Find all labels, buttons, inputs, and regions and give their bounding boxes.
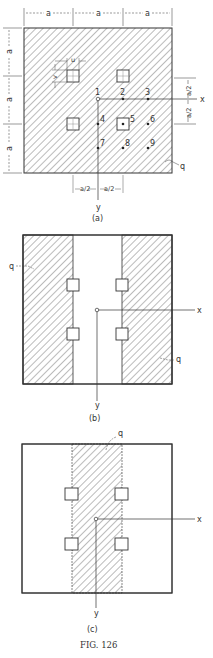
x-axis-label-a: x <box>200 95 205 104</box>
y-axis-label-a: y <box>96 203 101 212</box>
load-label-b-left: q <box>9 262 14 271</box>
dim-left-3: a <box>5 146 14 151</box>
panel-a: a a a a a a a/2 a/2 <box>3 8 205 223</box>
dim-top-2: a <box>96 9 101 18</box>
x-axis-label-b: x <box>197 306 202 315</box>
dim-top-1: a <box>46 9 51 18</box>
load-label-b-right: q <box>176 355 181 364</box>
figure-126: a a a a a a a/2 a/2 <box>0 0 213 658</box>
point-2: 2 <box>120 88 125 97</box>
dim-right-1: a/2 <box>185 86 193 96</box>
point-1: 1 <box>95 88 100 97</box>
load-strip-right-b <box>122 235 172 384</box>
y-axis-label-b: y <box>95 401 100 410</box>
dim-bottom-2: a/2 <box>104 185 114 193</box>
load-label-a: q <box>180 162 185 171</box>
column-dim-u: u <box>71 56 75 64</box>
dim-top-3: a <box>145 9 150 18</box>
load-label-c: q <box>118 429 123 438</box>
column-dim-v: v <box>51 75 59 79</box>
x-axis-label-c: x <box>197 515 202 524</box>
point-9: 9 <box>150 139 155 148</box>
dim-bottom-1: a/2 <box>80 185 90 193</box>
panel-label-b: (b) <box>89 414 100 423</box>
panel-b: x y q q (b) <box>9 235 202 423</box>
dim-right-2: a/2 <box>185 108 193 118</box>
dim-left-2: a <box>5 97 14 102</box>
figure-caption: FIG. 126 <box>80 640 117 650</box>
point-7: 7 <box>100 139 105 148</box>
point-5: 5 <box>130 115 135 124</box>
point-3: 3 <box>145 88 150 97</box>
dim-left-1: a <box>5 49 14 54</box>
panel-label-c: (c) <box>87 625 98 634</box>
load-strip-left-b <box>23 235 73 384</box>
panel-c: x y q (c) <box>22 429 202 634</box>
y-axis-label-c: y <box>94 609 99 618</box>
panel-label-a: (a) <box>92 214 103 223</box>
point-6: 6 <box>150 115 155 124</box>
point-4: 4 <box>100 115 105 124</box>
point-8: 8 <box>125 139 130 148</box>
